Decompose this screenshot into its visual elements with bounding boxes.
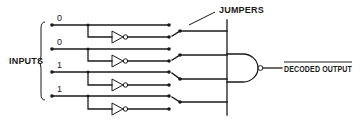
- input-bit-3: 1: [57, 60, 62, 70]
- jumpers-leader-line: [189, 12, 215, 25]
- input-bit-2: 0: [57, 37, 62, 47]
- true-contact: [167, 23, 171, 27]
- nand-bubble: [258, 66, 263, 71]
- input-bit-4: 1: [57, 84, 62, 94]
- input-channel-4: 1: [50, 84, 227, 115]
- inverted-contact: [167, 35, 171, 39]
- input-channel-3: 1: [50, 60, 227, 91]
- input-channel-1: 0: [50, 13, 227, 43]
- inverted-contact: [167, 83, 171, 87]
- inputs-label: INPUTS: [9, 56, 43, 66]
- inverter-bubble: [123, 107, 127, 111]
- true-contact: [167, 94, 171, 98]
- inverter-icon: [112, 79, 123, 91]
- inverter-icon: [112, 55, 123, 67]
- inverter-bubble: [123, 59, 127, 63]
- input-bit-1: 0: [57, 13, 62, 23]
- inverter-bubble: [123, 83, 127, 87]
- input-channel-2: 0: [50, 37, 227, 67]
- jumpers-label: JUMPERS: [219, 5, 264, 15]
- inverted-contact: [167, 107, 171, 111]
- inverter-icon: [112, 31, 123, 43]
- true-contact: [167, 70, 171, 74]
- true-contact: [167, 47, 171, 51]
- nand-gate-icon: [227, 54, 258, 82]
- decoded-output-label: DECODED OUTPUT: [284, 64, 352, 74]
- decoder-diagram: INPUTS 0 0 1: [0, 0, 360, 124]
- inverter-icon: [112, 103, 123, 115]
- inverter-bubble: [123, 35, 127, 39]
- inverted-contact: [167, 59, 171, 63]
